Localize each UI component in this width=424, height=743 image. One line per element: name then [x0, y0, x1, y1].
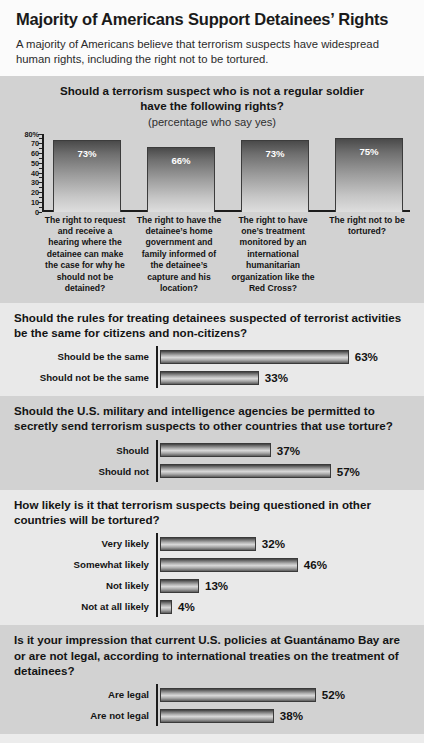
horizontal-bar: [160, 579, 199, 593]
horizontal-bar-track: 52%: [156, 684, 410, 705]
horizontal-bar-category-label: Are not legal: [14, 710, 156, 721]
chart-row: Should not57%: [14, 461, 410, 482]
horizontal-bar-category-label: Not likely: [14, 580, 156, 591]
section2-question: Should the rules for treating detainees …: [14, 310, 410, 341]
vertical-bar-slot: 66%: [144, 134, 218, 212]
hchart-guantanamo: Are legal52%Are not legal38%: [14, 684, 410, 726]
chart-row: Very likely32%: [14, 533, 410, 554]
horizontal-bar: [160, 688, 316, 702]
horizontal-bar: [160, 709, 274, 723]
horizontal-bar: [160, 558, 298, 572]
hchart-likelihood: Very likely32%Somewhat likely46%Not like…: [14, 533, 410, 617]
horizontal-bar-value-label: 63%: [355, 350, 378, 363]
horizontal-bar-value-label: 46%: [304, 558, 327, 571]
vertical-bar-category-label: The right not to be tortured?: [324, 215, 410, 295]
section1-note: (percentage who say yes): [14, 116, 410, 128]
horizontal-bar-category-label: Should not be the same: [14, 372, 156, 383]
section5-question: Is it your impression that current U.S. …: [14, 632, 410, 678]
vertical-bar-category-label: The right to request and receive a heari…: [42, 215, 128, 295]
section-same-rules: Should the rules for treating detainees …: [0, 303, 424, 397]
horizontal-bar-track: 33%: [156, 367, 410, 388]
vertical-bar-slot: 73%: [238, 134, 312, 212]
section-guantanamo-legality: Is it your impression that current U.S. …: [0, 625, 424, 734]
infographic-root: Majority of Americans Support Detainees’…: [0, 0, 424, 743]
chart-row: Not likely13%: [14, 575, 410, 596]
vertical-bar: 66%: [147, 147, 215, 211]
section-rendition: Should the U.S. military and intelligenc…: [0, 396, 424, 490]
chart-row: Should not be the same33%: [14, 367, 410, 388]
vertical-bar-value-label: 75%: [336, 146, 402, 157]
y-axis-tick-label: 80%: [24, 129, 39, 138]
horizontal-bar-category-label: Somewhat likely: [14, 559, 156, 570]
horizontal-bar-track: 4%: [156, 596, 410, 617]
horizontal-bar-category-label: Should: [14, 445, 156, 456]
horizontal-bar-track: 63%: [156, 346, 410, 367]
vertical-bar: 75%: [335, 138, 403, 211]
horizontal-bar-track: 37%: [156, 440, 410, 461]
vertical-bar-category-label: The right to have the detainee’s home go…: [136, 215, 222, 295]
hchart-same-rules: Should be the same63%Should not be the s…: [14, 346, 410, 388]
chart-row: Are legal52%: [14, 684, 410, 705]
vertical-bar-chart: 80%706050403020100 73%66%73%75%: [14, 134, 410, 212]
page-title: Majority of Americans Support Detainees’…: [16, 10, 408, 30]
chart-row: Should37%: [14, 440, 410, 461]
horizontal-bar-value-label: 38%: [280, 709, 303, 722]
horizontal-bar-value-label: 32%: [262, 537, 285, 550]
horizontal-bar-track: 32%: [156, 533, 410, 554]
horizontal-bar-value-label: 37%: [277, 444, 300, 457]
y-axis: 80%706050403020100: [14, 134, 42, 212]
horizontal-bar: [160, 443, 271, 457]
horizontal-bar-category-label: Should be the same: [14, 351, 156, 362]
horizontal-bar-track: 46%: [156, 554, 410, 575]
section-rights-of-suspects: Should a terrorism suspect who is not a …: [0, 76, 424, 303]
section-likelihood-of-torture: How likely is it that terrorism suspects…: [0, 490, 424, 626]
footer: Source: WorldPublicOpinion.org, Program …: [0, 734, 424, 743]
horizontal-bar-track: 38%: [156, 705, 410, 726]
vertical-bar: 73%: [241, 140, 309, 211]
horizontal-bar: [160, 537, 256, 551]
vertical-bar-value-label: 73%: [242, 148, 308, 159]
chart-row: Not at all likely4%: [14, 596, 410, 617]
chart-row: Somewhat likely46%: [14, 554, 410, 575]
vertical-bars: 73%66%73%75%: [42, 134, 410, 212]
horizontal-bar: [160, 350, 349, 364]
horizontal-bar-value-label: 33%: [265, 371, 288, 384]
section1-question-line1: Should a terrorism suspect who is not a …: [14, 83, 410, 98]
horizontal-bar: [160, 600, 172, 614]
horizontal-bar-track: 13%: [156, 575, 410, 596]
horizontal-bar-track: 57%: [156, 461, 410, 482]
section1-question-line2: have the following rights?: [14, 98, 410, 113]
vertical-bar-slot: 73%: [50, 134, 124, 212]
chart-row: Are not legal38%: [14, 705, 410, 726]
hchart-rendition: Should37%Should not57%: [14, 440, 410, 482]
vertical-bar-value-label: 66%: [148, 155, 214, 166]
horizontal-bar-value-label: 4%: [178, 600, 195, 613]
horizontal-bar-value-label: 52%: [322, 688, 345, 701]
vertical-bar: 73%: [53, 140, 121, 211]
chart-row: Should be the same63%: [14, 346, 410, 367]
horizontal-bar-category-label: Should not: [14, 466, 156, 477]
horizontal-bar-category-label: Not at all likely: [14, 601, 156, 612]
horizontal-bar-value-label: 57%: [337, 465, 360, 478]
horizontal-bar: [160, 371, 259, 385]
horizontal-bar-value-label: 13%: [205, 579, 228, 592]
vertical-bar-value-label: 73%: [54, 148, 120, 159]
page-subtitle: A majority of Americans believe that ter…: [16, 37, 408, 68]
section3-question: Should the U.S. military and intelligenc…: [14, 403, 410, 434]
horizontal-bar: [160, 464, 331, 478]
section4-question: How likely is it that terrorism suspects…: [14, 497, 410, 528]
horizontal-bar-category-label: Very likely: [14, 538, 156, 549]
y-axis-tick-mark: [38, 212, 42, 213]
vertical-bar-slot: 75%: [332, 134, 406, 212]
header: Majority of Americans Support Detainees’…: [0, 0, 424, 76]
vertical-bar-category-label: The right to have one’s treatment monito…: [230, 215, 316, 295]
vertical-bar-category-labels: The right to request and receive a heari…: [14, 215, 410, 295]
horizontal-bar-category-label: Are legal: [14, 689, 156, 700]
